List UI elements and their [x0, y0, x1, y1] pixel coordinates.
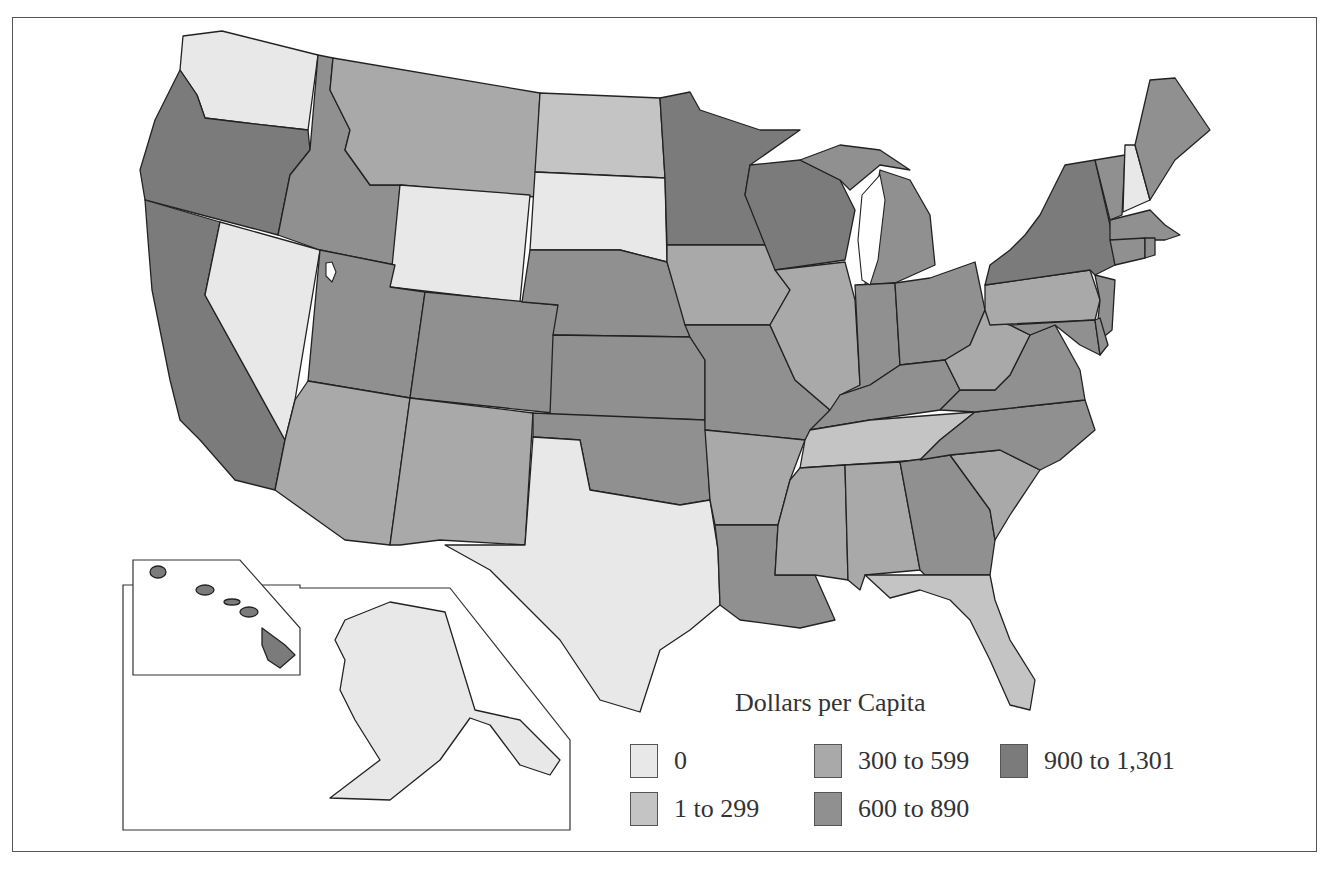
legend-swatch: [630, 792, 658, 826]
legend-item-1: 1 to 299: [630, 792, 759, 826]
legend-item-4: 900 to 1,301: [1000, 744, 1175, 778]
legend-item-2: 300 to 599: [814, 744, 969, 778]
legend-swatch: [630, 744, 658, 778]
legend-title: Dollars per Capita: [735, 688, 926, 718]
state-NM[interactable]: [390, 398, 533, 545]
legend-label: 300 to 599: [858, 746, 969, 776]
state-SD[interactable]: [530, 172, 667, 262]
state-CO[interactable]: [410, 292, 558, 413]
legend-swatch: [814, 744, 842, 778]
state-ND[interactable]: [535, 93, 665, 178]
legend-item-0: 0: [630, 744, 687, 778]
legend-swatch: [1000, 744, 1028, 778]
state-NY[interactable]: [985, 160, 1115, 285]
legend-label: 1 to 299: [674, 794, 759, 824]
state-CT[interactable]: [1110, 238, 1145, 265]
legend-item-3: 600 to 890: [814, 792, 969, 826]
state-ME[interactable]: [1135, 78, 1210, 200]
legend-label: 900 to 1,301: [1044, 746, 1175, 776]
state-RI[interactable]: [1145, 238, 1155, 258]
state-AZ[interactable]: [275, 381, 410, 545]
state-WY[interactable]: [390, 185, 530, 302]
legend: Dollars per Capita 0 1 to 299 300 to 599…: [630, 688, 1230, 848]
legend-swatch: [814, 792, 842, 826]
state-KS[interactable]: [550, 335, 705, 420]
legend-label: 600 to 890: [858, 794, 969, 824]
legend-label: 0: [674, 746, 687, 776]
